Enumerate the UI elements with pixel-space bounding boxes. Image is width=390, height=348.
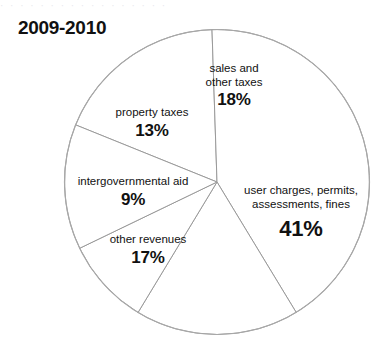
slice-label-line1: property taxes — [97, 106, 207, 120]
slice-label-line1: user charges, permits, — [228, 184, 374, 198]
slice-label-line2: other taxes — [186, 76, 282, 90]
slice-label-line1: sales and — [186, 62, 282, 76]
slice-value-user-charges: 41% — [228, 216, 374, 242]
pie-chart-figure: · · · · · · · · · · · · · · · · · 2009-2… — [0, 0, 390, 348]
slice-label-line1: other revenues — [90, 233, 206, 247]
slice-label-property-taxes: property taxes 13% — [97, 106, 207, 141]
slice-label-user-charges-permits-assessments-fines: user charges, permits, assessments, fine… — [228, 184, 374, 242]
slice-label-other-revenues: other revenues 17% — [90, 233, 206, 268]
slice-value-intergovernmental-aid: 9% — [62, 190, 204, 210]
slice-label-line2: assessments, fines — [228, 198, 374, 212]
slice-value-property-taxes: 13% — [97, 121, 207, 141]
slice-label-sales-and-other-taxes: sales and other taxes 18% — [186, 62, 282, 110]
slice-label-intergovernmental-aid: intergovernmental aid 9% — [62, 175, 204, 210]
pie-svg — [0, 0, 390, 348]
slice-value-other-revenues: 17% — [90, 248, 206, 268]
slice-label-line1: intergovernmental aid — [62, 175, 204, 189]
